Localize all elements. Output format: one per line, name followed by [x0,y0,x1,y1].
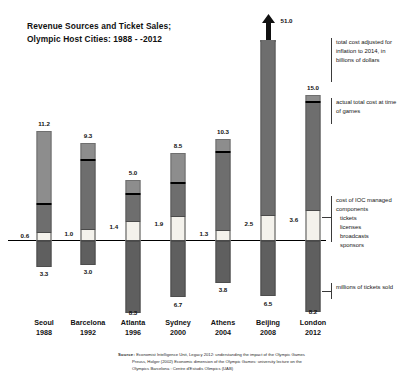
value-label-total-adjusted: 10.3 [217,129,229,135]
legend-item-actual-cost: actual total cost at time of games [336,98,398,116]
segment-tickets-sold [37,241,52,267]
bar-group-seoul[interactable]: 11.2 4.0 0.6 3.3 Seoul 1988 [22,0,66,340]
axis-label-atlanta: Atlanta 1996 [111,318,155,339]
axis-label-seoul: Seoul 1988 [22,318,66,339]
city-year: 1996 [111,328,155,338]
city-year: 1988 [22,328,66,338]
legend-item-tickets-sold: millions of tickets sold [336,283,398,292]
segment-actual-cost [171,184,186,217]
value-label-ioc: 3.6 [290,217,299,223]
segment-actual-cost [261,40,276,216]
segment-tickets-sold [261,241,276,296]
source-text-3: Olympics Barcelona : Centre d'Estudis Ol… [132,366,233,371]
city-name: Barcelona [71,318,106,327]
city-name: Athens [211,318,235,327]
segment-ioc-components [37,232,52,241]
overflow-arrow-icon [261,14,276,40]
segment-ioc-components [306,210,321,241]
value-label-ioc: 0.6 [21,233,30,239]
legend-connector-tickets [331,283,332,299]
bar-group-london[interactable]: 15.0 14.6 3.6 8.2 London 2012 [291,0,335,340]
source-line-2: Preuss, Holger (2002) Economic dimension… [118,359,338,366]
legend-connector-ioc [331,196,332,242]
city-name: Beijing [256,318,280,327]
value-label-tickets: 3.3 [40,271,49,277]
city-year: 2004 [201,328,245,338]
axis-label-barcelona: Barcelona 1992 [66,318,110,339]
source-note: Source: Economist Intelligence Unit, Leg… [118,352,338,372]
segment-total-adjusted [37,131,52,205]
source-line-1: Source: Economist Intelligence Unit, Leg… [118,352,338,359]
source-label: Source: [118,352,135,357]
segment-tickets-sold [171,241,186,297]
segment-ioc-components [261,215,276,241]
source-line-3: Olympics Barcelona : Centre d'Estudis Ol… [118,366,338,373]
source-text-1: Economist Intelligence Unit, Legacy 2012… [136,352,305,357]
source-text-2: Preuss, Holger (2002) Economic dimension… [132,359,302,364]
bar-group-athens[interactable]: 10.3 9.9 1.3 3.8 Athens 2004 [201,0,245,340]
legend-ioc-heading: cost of IOC managed components [336,197,392,212]
legend-ioc-broadcasts: broadcasts [336,232,398,241]
legend-pointer-ioc [322,217,331,218]
legend-ioc-licenses: licenses [336,223,398,232]
legend-pointer-tickets [322,291,331,292]
city-year: 2000 [156,328,200,338]
segment-actual-cost [37,205,52,233]
segment-ioc-components [171,216,186,241]
value-label-ioc: 2.5 [245,221,254,227]
value-label-total-adjusted: 11.2 [38,121,50,127]
city-name: London [300,318,326,327]
city-year: 2008 [246,328,290,338]
chart-plot-area: 11.2 4.0 0.6 3.3 Seoul 1988 9.3 7.2 1.0 … [0,0,398,340]
city-name: Seoul [34,318,54,327]
legend-ioc-sponsors: sponsors [336,241,398,250]
segment-ioc-components [216,230,231,241]
axis-label-athens: Athens 2004 [201,318,245,339]
city-name: Atlanta [121,318,145,327]
axis-label-london: London 2012 [291,318,335,339]
bar-group-atlanta[interactable]: 5.0 4.0 1.4 8.3 Atlanta 1996 [111,0,155,340]
segment-ioc-components [126,221,141,241]
legend-connector-actual [331,98,332,124]
value-label-total-adjusted: 15.0 [307,85,319,91]
city-year: 2012 [291,328,335,338]
value-label-ioc: 1.3 [200,231,209,237]
axis-label-sydney: Sydney 2000 [156,318,200,339]
bar-group-beijing[interactable]: 51.0 44.0 2.5 6.5 Beijing 2008 [246,0,290,340]
city-name: Sydney [165,318,191,327]
value-label-ioc: 1.9 [155,221,164,227]
bar-group-sydney[interactable]: 8.5 5.6 1.9 6.7 Sydney 2000 [156,0,200,340]
legend-ioc-tickets: tickets [336,214,398,223]
value-label-total-adjusted: 8.5 [174,143,183,149]
legend-connector-adjusted [331,38,332,82]
segment-tickets-sold [81,241,96,265]
legend-item-ioc: cost of IOC managed components tickets l… [336,196,398,250]
segment-tickets-sold [216,241,231,283]
value-label-tickets: 8.3 [129,310,138,316]
value-label-tickets: 6.5 [264,301,273,307]
bar-group-barcelona[interactable]: 9.3 7.2 1.0 3.0 Barcelona 1992 [66,0,110,340]
segment-actual-cost [306,103,321,211]
value-label-ioc: 1.0 [65,231,74,237]
segment-actual-cost [81,161,96,230]
value-label-tickets: 8.2 [309,309,318,315]
segment-ioc-components [81,229,96,241]
segment-tickets-sold [306,241,321,312]
segment-total-adjusted [171,153,186,184]
segment-actual-cost [216,153,231,231]
axis-label-beijing: Beijing 2008 [246,318,290,339]
segment-actual-cost [126,195,141,222]
value-label-tickets: 6.7 [174,302,183,308]
value-label-total-adjusted: 5.0 [129,170,138,176]
value-label-tickets: 3.0 [84,269,93,275]
value-label-total-adjusted: 9.3 [84,133,93,139]
value-label-ioc: 1.4 [110,224,119,230]
segment-tickets-sold [126,241,141,313]
legend-item-total-adjusted: total cost adjusted for inflation to 201… [336,38,398,65]
value-label-tickets: 3.8 [219,287,228,293]
city-year: 1992 [66,328,110,338]
chart-legend: total cost adjusted for inflation to 201… [330,0,398,340]
